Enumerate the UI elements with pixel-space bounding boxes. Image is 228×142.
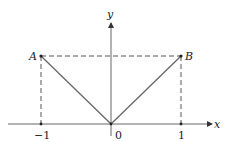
segment-oa [41,56,111,124]
point-a-label: A [28,50,37,63]
point-a [39,54,42,57]
point-b [179,54,182,57]
tick-label-neg1: −1 [34,129,50,142]
tick-neg1 [40,123,43,126]
tick-label-0: 0 [115,129,122,142]
tick-label-1: 1 [178,129,185,142]
y-axis-label: y [106,8,114,21]
point-b-label: B [184,50,193,63]
origin [110,123,113,126]
tick-1 [180,123,183,126]
x-axis-label: x [214,118,221,131]
segment-ob [111,56,181,124]
diagram-canvas: A B y x −1 0 1 [0,0,228,142]
